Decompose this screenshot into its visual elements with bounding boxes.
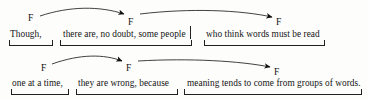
fixation-marker: F xyxy=(28,13,33,23)
phrase-bracket xyxy=(9,40,53,46)
fixation-marker: F xyxy=(128,17,133,27)
phrase-bracket xyxy=(204,40,325,46)
saccade-arc xyxy=(52,56,122,64)
text-caret xyxy=(190,26,191,39)
phrase-text: who think words must be read xyxy=(206,29,320,40)
fixation-row-1: F F F Though, there are, no doubt, some … xyxy=(0,0,369,50)
fixation-marker: F xyxy=(274,67,279,77)
phrase-text: there are, no doubt, some people xyxy=(63,29,186,40)
saccade-arc xyxy=(140,10,272,17)
phrase-text: one at a time, xyxy=(12,78,63,89)
phrase-text: Though, xyxy=(10,29,42,40)
phrase-text: meaning tends to come from groups of wor… xyxy=(187,78,361,89)
phrase-text: they are wrong, because xyxy=(78,78,169,89)
phrase-bracket xyxy=(184,89,362,95)
fixation-marker: F xyxy=(126,63,131,73)
saccade-arc xyxy=(138,60,270,67)
phrase-bracket xyxy=(76,89,178,95)
fixation-row-2: F F F one at a time, they are wrong, bec… xyxy=(0,50,369,100)
saccade-arc xyxy=(40,8,124,16)
diagram-canvas: F F F Though, there are, no doubt, some … xyxy=(0,0,369,100)
fixation-marker: F xyxy=(276,17,281,27)
phrase-bracket xyxy=(11,89,69,95)
phrase-bracket xyxy=(60,40,192,46)
fixation-marker: F xyxy=(41,63,46,73)
